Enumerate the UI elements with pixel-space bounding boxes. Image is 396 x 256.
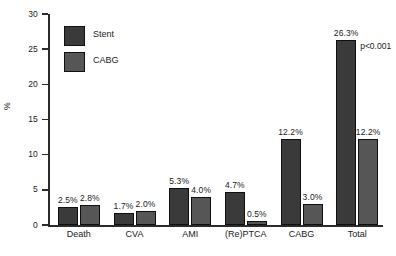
bar-group: 12.2%3.0%	[281, 14, 323, 225]
bar-cabg-cva	[136, 211, 156, 225]
bar-value-label: 26.3%	[331, 28, 361, 38]
p-value-annotation: p<0.001	[360, 41, 391, 51]
bar-group: 4.7%0.5%	[225, 14, 267, 225]
bar-value-label: 12.2%	[353, 127, 383, 137]
bar-cabg-cabg	[303, 204, 323, 225]
bar-value-label: 2.0%	[131, 199, 161, 209]
bar-group: 1.7%2.0%	[114, 14, 156, 225]
y-tick-label-20: 20	[12, 79, 38, 89]
y-tick-label-25: 25	[12, 44, 38, 54]
y-tick-label-15: 15	[12, 114, 38, 124]
y-tick-30	[42, 13, 48, 15]
y-tick-25	[42, 48, 48, 50]
legend-label-cabg: CABG	[93, 55, 119, 65]
bar-value-label: 12.2%	[276, 127, 306, 137]
bar-stent-reptca	[225, 192, 245, 225]
y-tick-10	[42, 154, 48, 156]
y-tick-label-5: 5	[12, 184, 38, 194]
plot-area: 2.5%2.8%1.7%2.0%5.3%4.0%4.7%0.5%12.2%3.0…	[49, 14, 383, 225]
bar-value-label: 4.7%	[220, 180, 250, 190]
y-tick-label-30: 30	[12, 9, 38, 19]
bar-stent-cabg	[281, 139, 301, 225]
bar-cabg-death	[80, 205, 100, 225]
bar-value-label: 2.8%	[75, 193, 105, 203]
bar-cabg-total	[358, 139, 378, 225]
legend-swatch-cabg	[64, 52, 85, 72]
bar-stent-cva	[114, 213, 134, 225]
bar-cabg-ami	[191, 197, 211, 225]
y-tick-label-0: 0	[12, 220, 38, 230]
bar-cabg-reptca	[247, 221, 267, 225]
legend-label-stent: Stent	[93, 29, 114, 39]
y-tick-5	[42, 189, 48, 191]
bar-value-label: 0.5%	[242, 209, 272, 219]
bar-stent-death	[58, 207, 78, 225]
y-tick-0	[42, 224, 48, 226]
x-axis-label-total: Total	[317, 229, 396, 239]
y-axis-title: %	[2, 102, 12, 110]
bar-group: 5.3%4.0%	[169, 14, 211, 225]
x-axis-line	[48, 225, 383, 227]
bar-value-label: 3.0%	[298, 192, 328, 202]
bar-value-label: 4.0%	[186, 185, 216, 195]
y-tick-15	[42, 119, 48, 121]
y-tick-label-10: 10	[12, 149, 38, 159]
y-tick-20	[42, 84, 48, 86]
legend-swatch-stent	[64, 26, 85, 46]
